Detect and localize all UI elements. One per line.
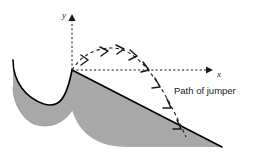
x-axis-group: x	[72, 66, 221, 79]
ski-jump-diagram: y x Path of jumper	[0, 0, 254, 159]
diagram-canvas: y x Path of jumper	[0, 0, 254, 159]
y-axis-arrowhead-icon	[68, 14, 75, 21]
ramp-group	[13, 60, 222, 147]
y-axis-group: y	[61, 10, 76, 70]
x-axis-arrowhead-icon	[206, 66, 213, 73]
trajectory-chevron-7	[163, 99, 171, 108]
x-axis-label: x	[216, 69, 221, 79]
trajectory-chevron-3	[116, 45, 124, 54]
trajectory-chevron-5	[141, 62, 149, 72]
trajectory-chevron-2	[100, 47, 108, 56]
trajectory-chevron-1	[81, 55, 88, 65]
trajectory-label: Path of jumper	[174, 85, 236, 96]
trajectory-chevron-4	[129, 50, 137, 60]
y-axis-label: y	[61, 10, 66, 20]
trajectory-chevron-6	[152, 78, 160, 88]
